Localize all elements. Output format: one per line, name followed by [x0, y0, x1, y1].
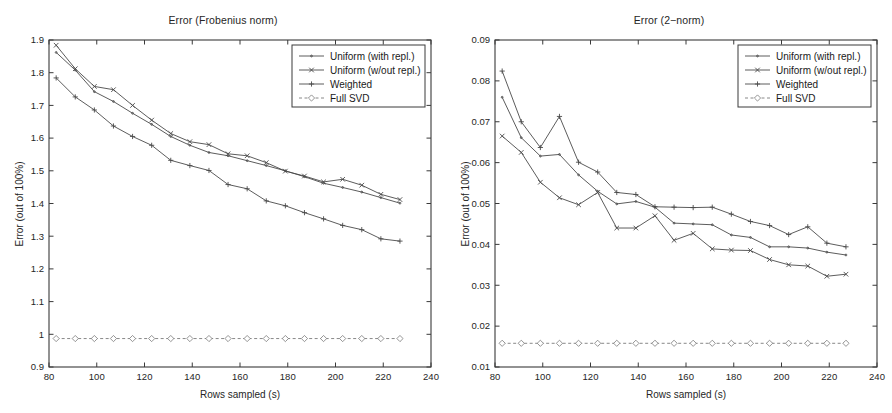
data-point-marker — [538, 180, 543, 185]
data-point-marker — [397, 335, 403, 341]
y-tick-label: 0.09 — [472, 34, 491, 45]
data-point-marker — [55, 52, 57, 54]
data-point-marker — [691, 231, 696, 236]
y-tick-label: 1.4 — [31, 198, 44, 209]
legend-label: Uniform (w/out repl.) — [330, 65, 421, 76]
data-point-marker — [671, 205, 676, 210]
x-tick-label: 120 — [137, 371, 153, 382]
y-tick-label: 0.01 — [472, 361, 491, 372]
figure-canvas: Error (Frobenius norm) Error (out of 100… — [0, 0, 892, 413]
data-point-marker — [302, 210, 307, 215]
data-point-marker — [91, 335, 97, 341]
data-point-marker — [767, 223, 772, 228]
data-point-marker — [378, 335, 384, 341]
legend-label: Uniform (w/out repl.) — [776, 65, 867, 76]
data-point-marker — [556, 340, 562, 346]
y-tick-label: 0.04 — [472, 239, 491, 250]
legend-label: Weighted — [330, 79, 372, 90]
y-tick-label: 0.08 — [472, 75, 491, 86]
x-tick-label: 240 — [423, 371, 439, 382]
y-tick-label: 1.7 — [31, 100, 44, 111]
chart-panel-frobenius: Error (Frobenius norm) Error (out of 100… — [0, 0, 446, 413]
data-point-marker — [320, 335, 326, 341]
legend-label: Uniform (with repl.) — [330, 51, 414, 62]
y-tick-label: 1.2 — [31, 263, 44, 274]
data-point-marker — [399, 202, 401, 204]
data-point-marker — [709, 340, 715, 346]
data-point-marker — [728, 340, 734, 346]
data-point-marker — [130, 103, 135, 108]
data-point-marker — [359, 227, 364, 232]
data-point-marker — [301, 335, 307, 341]
legend-label: Full SVD — [776, 93, 815, 104]
x-tick-label: 140 — [630, 371, 646, 382]
chart-panel-2norm: Error (2−norm) Error (out of 100%) Rows … — [446, 0, 892, 413]
plot-area-right: 801001201401601802002202400.010.020.030.… — [446, 0, 892, 413]
data-point-marker — [397, 239, 402, 244]
y-tick-label: 0.05 — [472, 198, 491, 209]
data-point-marker — [283, 203, 288, 208]
data-point-marker — [340, 335, 346, 341]
data-point-marker — [747, 340, 753, 346]
data-point-marker — [54, 43, 59, 48]
y-tick-label: 1.6 — [31, 132, 44, 143]
x-tick-label: 120 — [583, 371, 599, 382]
data-point-marker — [843, 244, 848, 249]
data-point-marker — [149, 118, 154, 123]
data-point-marker — [187, 163, 192, 168]
data-point-marker — [557, 195, 562, 200]
y-tick-label: 1.9 — [31, 34, 44, 45]
y-tick-label: 1 — [39, 329, 44, 340]
data-point-marker — [805, 340, 811, 346]
x-tick-label: 200 — [328, 371, 344, 382]
data-point-marker — [748, 219, 753, 224]
data-point-marker — [786, 232, 791, 237]
data-point-marker — [595, 340, 601, 346]
y-tick-label: 0.07 — [472, 116, 491, 127]
data-point-marker — [187, 335, 193, 341]
data-point-marker — [340, 223, 345, 228]
x-tick-label: 80 — [490, 371, 501, 382]
data-point-marker — [110, 335, 116, 341]
data-point-marker — [263, 335, 269, 341]
y-tick-label: 0.06 — [472, 157, 491, 168]
series-line-0 — [502, 97, 846, 255]
y-tick-label: 1.5 — [31, 165, 44, 176]
data-point-marker — [576, 160, 581, 165]
y-tick-label: 1.1 — [31, 296, 44, 307]
data-point-marker — [72, 335, 78, 341]
data-point-marker — [264, 198, 269, 203]
x-tick-label: 180 — [726, 371, 742, 382]
data-point-marker — [168, 335, 174, 341]
data-point-marker — [633, 192, 638, 197]
data-point-marker — [282, 335, 288, 341]
data-point-marker — [537, 340, 543, 346]
data-point-marker — [518, 340, 524, 346]
data-point-marker — [653, 213, 658, 218]
data-point-marker — [729, 212, 734, 217]
legend-label: Full SVD — [330, 93, 369, 104]
data-point-marker — [225, 335, 231, 341]
data-point-marker — [786, 340, 792, 346]
x-tick-label: 220 — [821, 371, 837, 382]
data-point-marker — [557, 114, 562, 119]
y-tick-label: 1.3 — [31, 231, 44, 242]
x-tick-label: 180 — [280, 371, 296, 382]
data-point-marker — [671, 340, 677, 346]
data-point-marker — [53, 335, 59, 341]
y-tick-label: 0.9 — [31, 361, 44, 372]
data-point-marker — [824, 340, 830, 346]
data-point-marker — [652, 340, 658, 346]
data-point-marker — [499, 340, 505, 346]
x-tick-label: 80 — [44, 371, 55, 382]
data-point-marker — [129, 335, 135, 341]
legend-label: Weighted — [776, 79, 818, 90]
y-tick-label: 0.02 — [472, 320, 491, 331]
data-point-marker — [245, 186, 250, 191]
data-point-marker — [690, 340, 696, 346]
x-tick-label: 220 — [375, 371, 391, 382]
data-point-marker — [130, 134, 135, 139]
data-point-marker — [614, 340, 620, 346]
data-point-marker — [359, 183, 364, 188]
data-point-marker — [672, 238, 677, 243]
